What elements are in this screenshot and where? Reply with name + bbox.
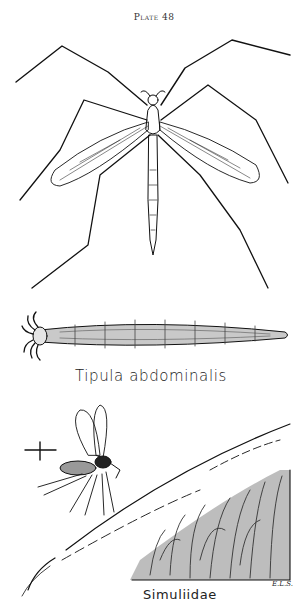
- crane-fly-figure: [16, 40, 290, 288]
- larva-figure: [22, 312, 288, 360]
- simuliidae-figure: [22, 405, 290, 596]
- plate-illustration: [0, 0, 308, 610]
- larva-caption: Tipula abdominalis: [75, 367, 227, 385]
- simuliidae-caption: Simuliidae: [143, 587, 217, 602]
- artist-initials: E.L.S.: [272, 580, 293, 588]
